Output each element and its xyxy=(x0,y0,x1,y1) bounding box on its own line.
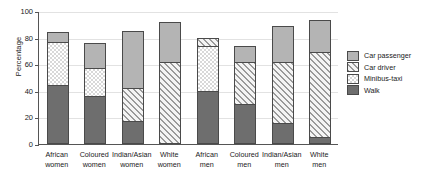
gridline xyxy=(39,12,338,13)
y-axis-tick-label: 100 xyxy=(20,8,33,16)
legend-swatch-icon xyxy=(347,74,359,84)
y-axis-tick-label: 0 xyxy=(29,141,33,149)
legend-item[interactable]: Car driver xyxy=(347,62,411,74)
bar-segment-carpass xyxy=(309,20,331,52)
x-axis-label-line: White xyxy=(293,150,345,160)
bar-segment-minibus xyxy=(47,42,69,86)
chart-legend: Car passengerCar driverMinibus-taxiWalk xyxy=(347,50,411,96)
bar-segment-walk xyxy=(272,123,294,144)
bar-segment-carpass xyxy=(84,43,106,68)
legend-label: Walk xyxy=(364,86,380,95)
bar-segment-carpass xyxy=(122,31,144,88)
bar-segment-minibus xyxy=(197,46,219,91)
bar-segment-cardriver xyxy=(197,38,219,46)
stacked-bar-chart: Percentage 020406080100 AfricanwomenColo… xyxy=(0,0,432,190)
bar-segment-walk xyxy=(234,104,256,144)
bar-segment-walk xyxy=(309,137,331,144)
plot-area: 020406080100 xyxy=(38,12,338,145)
y-axis-label: Percentage xyxy=(14,17,23,97)
bar-segment-carpass xyxy=(47,32,69,41)
x-axis-label: Whitemen xyxy=(293,150,345,169)
bar-segment-cardriver xyxy=(234,62,256,105)
legend-label: Car passenger xyxy=(364,51,411,60)
legend-swatch-icon xyxy=(347,85,359,95)
bar-african-women xyxy=(47,32,69,144)
y-axis-tick xyxy=(35,118,39,119)
y-axis-tick xyxy=(35,92,39,93)
bar-coloured-women xyxy=(84,43,106,144)
bar-segment-carpass xyxy=(234,46,256,62)
bar-coloured-men xyxy=(234,46,256,144)
bar-white-men xyxy=(309,20,331,144)
y-axis-tick xyxy=(35,65,39,66)
bar-segment-walk xyxy=(197,91,219,144)
bar-segment-cardriver xyxy=(159,62,181,144)
y-axis-tick-label: 60 xyxy=(25,61,33,69)
bar-white-women xyxy=(159,22,181,144)
legend-swatch-icon xyxy=(347,62,359,72)
legend-item[interactable]: Car passenger xyxy=(347,50,411,62)
bar-segment-walk xyxy=(122,121,144,144)
legend-label: Minibus-taxi xyxy=(364,74,402,83)
y-axis-tick-label: 40 xyxy=(25,88,33,96)
bar-segment-carpass xyxy=(272,26,294,62)
y-axis-tick-label: 20 xyxy=(25,115,33,123)
x-axis-label-line: men xyxy=(293,160,345,170)
y-axis-tick xyxy=(35,39,39,40)
bar-segment-walk xyxy=(84,96,106,144)
legend-label: Car driver xyxy=(364,63,396,72)
y-axis-tick xyxy=(35,145,39,146)
bar-indian-asian-men xyxy=(272,26,294,144)
legend-swatch-icon xyxy=(347,51,359,61)
bar-indian-asian-women xyxy=(122,31,144,144)
bar-segment-carpass xyxy=(159,22,181,62)
bar-segment-cardriver xyxy=(122,88,144,121)
bar-segment-walk xyxy=(47,85,69,144)
bar-segment-cardriver xyxy=(272,62,294,123)
y-axis-tick-label: 80 xyxy=(25,35,33,43)
y-axis-tick xyxy=(35,12,39,13)
bar-segment-cardriver xyxy=(309,52,331,137)
legend-item[interactable]: Minibus-taxi xyxy=(347,73,411,85)
bar-african-men xyxy=(197,38,219,144)
bar-segment-minibus xyxy=(84,68,106,96)
legend-item[interactable]: Walk xyxy=(347,85,411,97)
